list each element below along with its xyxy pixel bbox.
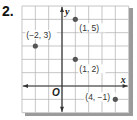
point-marker bbox=[113, 97, 118, 102]
point-label: (1, 5) bbox=[79, 23, 99, 33]
point-label: (−2, 3) bbox=[26, 30, 51, 40]
point-label: (4, −1) bbox=[85, 92, 110, 102]
point-label: (1, 2) bbox=[79, 64, 99, 74]
coordinate-plane: yxO (−2, 3)(1, 5)(1, 2)(4, −1) bbox=[0, 0, 137, 120]
point-marker bbox=[73, 57, 78, 62]
point-marker bbox=[33, 43, 38, 48]
y-axis-label: y bbox=[64, 6, 70, 17]
point-marker bbox=[73, 17, 78, 22]
origin-label: O bbox=[52, 87, 60, 98]
x-axis-label: x bbox=[120, 74, 126, 85]
